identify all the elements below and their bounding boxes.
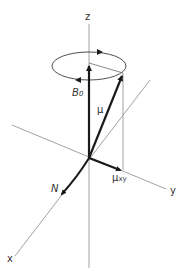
circle-arrow-bottom-icon: [75, 77, 81, 83]
magnetic-moment-precession-diagram: z x y B0 μ μxy N: [0, 0, 184, 272]
n-vector: [62, 158, 89, 194]
diagram-graphic: [0, 0, 184, 272]
n-label: N: [51, 184, 58, 194]
x-axis-label: x: [7, 254, 13, 264]
circle-arrow-top-icon: [97, 49, 103, 55]
z-axis-label: z: [85, 12, 90, 22]
mu-xy-vector: [89, 158, 120, 170]
radius-line: [89, 63, 123, 73]
mu-xy-label: μxy: [112, 173, 127, 184]
y-axis-label: y: [170, 186, 176, 196]
b0-label: B0: [72, 88, 83, 99]
mu-vector: [89, 76, 122, 158]
mu-label: μ: [97, 105, 103, 115]
